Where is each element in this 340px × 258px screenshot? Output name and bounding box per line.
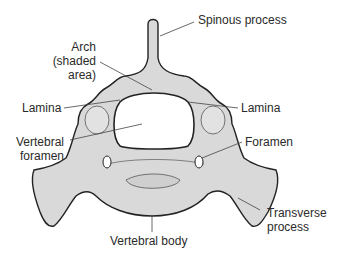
label-transverse-process-line1: Transverse <box>267 206 327 220</box>
label-vertebral-foramen-line2: foramen <box>10 149 64 163</box>
lamina-right-shape <box>201 106 225 134</box>
label-arch-line2: (shaded <box>52 54 96 68</box>
label-lamina-right: Lamina <box>241 101 280 115</box>
label-vertebral-foramen: Vertebral foramen <box>10 135 64 163</box>
label-lamina-left: Lamina <box>22 101 61 115</box>
label-arch: Arch (shaded area) <box>52 40 96 82</box>
label-foramen: Foramen <box>245 135 293 149</box>
label-vertebral-foramen-line1: Vertebral <box>10 135 64 149</box>
label-transverse-process: Transverse process <box>267 206 327 234</box>
foramen-left-hole <box>103 156 111 168</box>
label-spinous-process: Spinous process <box>198 13 287 27</box>
vertebra-diagram: Spinous process Arch (shaded area) Lamin… <box>0 0 340 258</box>
label-arch-line1: Arch <box>52 40 96 54</box>
foramen-right-hole <box>195 156 203 168</box>
lamina-left-shape <box>85 106 109 134</box>
vertebral-foramen-hole <box>114 93 194 149</box>
label-vertebral-body: Vertebral body <box>110 234 187 248</box>
label-arch-line3: area) <box>52 68 96 82</box>
label-transverse-process-line2: process <box>267 220 327 234</box>
